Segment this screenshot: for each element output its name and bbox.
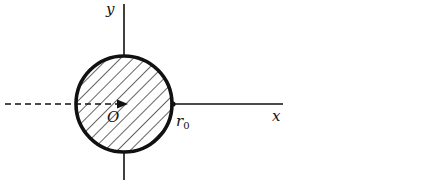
origin-label: O — [107, 108, 119, 126]
radius-label-subscript: 0 — [183, 120, 189, 131]
y-axis-label: y — [105, 0, 115, 18]
radius-label: r0 — [176, 112, 190, 131]
circular-region-diagram: y x O r0 — [0, 0, 435, 184]
boundary-point-r0 — [170, 101, 175, 106]
x-axis-label: x — [272, 107, 281, 125]
